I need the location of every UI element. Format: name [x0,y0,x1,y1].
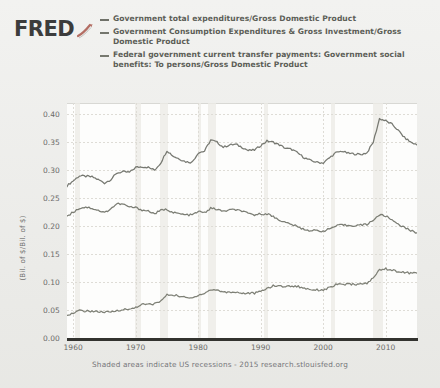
legend-item-label: Federal government current transfer paym… [113,50,430,71]
x-axis-tick: 1990 [251,343,271,352]
chart-footnote: Shaded areas indicate US recessions - 20… [0,360,440,369]
y-axis-tick: 0.00 [26,334,60,343]
legend-item-2: Federal government current transfer paym… [100,50,430,71]
y-axis-tick: 0.35 [26,138,60,147]
x-axis-tick: 2000 [314,343,334,352]
y-axis-tick-labels: 0.400.350.300.250.200.150.100.050.00 [26,92,60,342]
y-axis-tick: 0.25 [26,194,60,203]
fred-swoosh-icon [77,23,95,39]
fred-wordmark: FRED [14,19,74,40]
series-line [67,268,417,315]
legend-item-0: Government total expenditures/Gross Dome… [100,14,430,25]
legend-item-label: Government Consumption Expenditures & Gr… [113,27,430,48]
line-dash-icon [100,32,109,34]
y-axis-tick: 0.20 [26,222,60,231]
x-axis-baseline [67,338,418,341]
y-axis-tick: 0.15 [26,250,60,259]
x-axis-tick: 1960 [64,343,84,352]
y-axis-tick: 0.05 [26,306,60,315]
line-dash-icon [100,19,109,21]
series-line [67,119,417,187]
fred-chart-image: FRED Government total expenditures/Gross… [0,0,440,388]
chart-plot-region: (Bil. of $/Bil. of $) 0.400.350.300.250.… [0,92,440,388]
x-axis-tick-labels: 196019701980199020002010 [67,343,418,359]
y-axis-tick: 0.30 [26,166,60,175]
y-axis-tick: 0.40 [26,110,60,119]
x-axis-tick: 1970 [126,343,146,352]
legend-item-label: Government total expenditures/Gross Dome… [113,14,356,25]
legend-item-1: Government Consumption Expenditures & Gr… [100,27,430,48]
data-series-layer [67,103,417,338]
x-axis-tick: 1980 [189,343,209,352]
x-axis-tick: 2010 [376,343,396,352]
fred-logo: FRED [14,16,102,42]
y-axis-tick: 0.10 [26,278,60,287]
chart-header: FRED Government total expenditures/Gross… [0,0,440,92]
series-line [67,203,417,233]
line-dash-icon [100,55,109,57]
chart-legend: Government total expenditures/Gross Dome… [100,14,430,73]
plot-canvas [67,103,417,338]
